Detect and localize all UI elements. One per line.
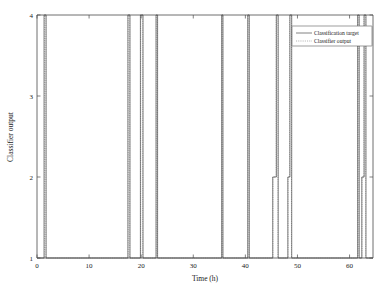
x-tick-label: 50 xyxy=(294,262,302,270)
legend-label-target: Classification target xyxy=(314,30,359,36)
x-tick-label: 60 xyxy=(346,262,354,270)
x-axis-label: Time (h) xyxy=(192,274,219,283)
x-tick-label: 30 xyxy=(190,262,198,270)
legend-label-output: Classifier output xyxy=(314,38,352,44)
chart-legend: Classification target Classifier output xyxy=(292,26,372,46)
y-tick-label: 1 xyxy=(30,255,34,263)
x-tick-label: 0 xyxy=(35,262,39,270)
y-axis-label: Classifier output xyxy=(6,111,15,162)
x-tick-label: 10 xyxy=(86,262,94,270)
x-tick-label: 40 xyxy=(242,262,250,270)
x-tick-label: 20 xyxy=(138,262,146,270)
y-tick-label: 3 xyxy=(30,93,34,101)
y-tick-label: 2 xyxy=(30,174,34,182)
chart-canvas: 01020304050601234 Time (h) Classifier ou… xyxy=(0,0,390,299)
classifier-output-chart: 01020304050601234 Time (h) Classifier ou… xyxy=(0,0,390,299)
y-tick-label: 4 xyxy=(30,12,34,20)
